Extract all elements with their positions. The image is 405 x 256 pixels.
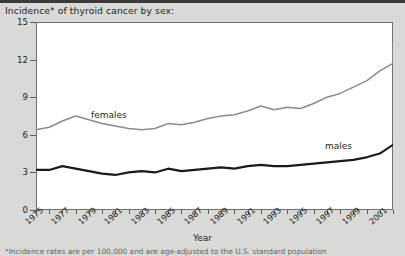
footnote: *Incidence rates are per 100,000 and are… xyxy=(5,247,327,256)
x-tick-mark xyxy=(393,210,394,214)
y-tick-label: 15 xyxy=(2,17,28,27)
x-tick-mark xyxy=(49,210,50,214)
y-tick-mark xyxy=(30,97,36,98)
x-axis-title: Year xyxy=(0,233,405,243)
plot-canvas xyxy=(36,22,393,210)
x-tick-mark xyxy=(234,210,235,214)
x-tick-mark xyxy=(181,210,182,214)
y-tick-mark xyxy=(30,22,36,23)
top-divider xyxy=(0,0,405,3)
x-tick-mark xyxy=(208,210,209,214)
chart-figure: Incidence* of thyroid cancer by sex: fem… xyxy=(0,0,405,256)
y-tick-label: 0 xyxy=(2,205,28,215)
x-tick-mark xyxy=(261,210,262,214)
series-line-females xyxy=(36,43,393,129)
page-title: Incidence* of thyroid cancer by sex: xyxy=(5,5,174,16)
x-tick-mark xyxy=(287,210,288,214)
y-tick-label: 6 xyxy=(2,130,28,140)
y-tick-mark xyxy=(30,60,36,61)
y-tick-label: 3 xyxy=(2,167,28,177)
x-tick-mark xyxy=(367,210,368,214)
y-tick-mark xyxy=(30,172,36,173)
y-tick-mark xyxy=(30,135,36,136)
y-tick-label: 9 xyxy=(2,92,28,102)
series-label-males: males xyxy=(325,141,352,151)
x-tick-mark xyxy=(155,210,156,214)
series-label-females: females xyxy=(91,110,127,120)
x-tick-mark xyxy=(129,210,130,214)
y-tick-label: 12 xyxy=(2,55,28,65)
x-tick-mark xyxy=(340,210,341,214)
x-tick-mark xyxy=(314,210,315,214)
x-tick-mark xyxy=(76,210,77,214)
x-tick-mark xyxy=(102,210,103,214)
